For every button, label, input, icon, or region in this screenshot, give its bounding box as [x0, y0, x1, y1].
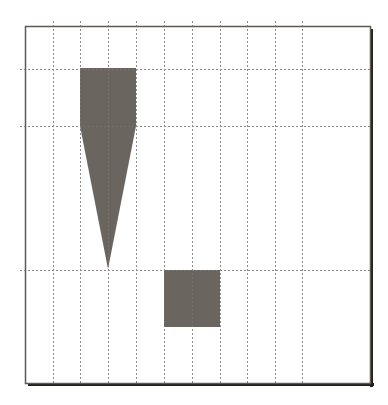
grid-diagram — [0, 0, 388, 405]
frame-background — [25, 26, 371, 384]
